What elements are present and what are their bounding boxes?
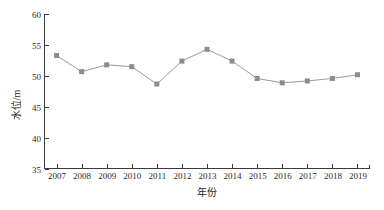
x-tick-label: 2012 xyxy=(173,172,191,181)
y-tick-label: 60 xyxy=(32,10,41,19)
data-point-marker xyxy=(255,76,260,81)
data-point-marker xyxy=(305,78,310,83)
x-tick-label: 2018 xyxy=(324,172,342,181)
x-tick-label: 2010 xyxy=(123,172,141,181)
y-tick-label: 45 xyxy=(32,103,41,112)
y-tick-label: 50 xyxy=(32,72,41,81)
plot-area: 354045505560 200720082009201020112012201… xyxy=(44,14,370,169)
series-water-level xyxy=(44,14,370,169)
x-tick-label: 2009 xyxy=(98,172,116,181)
x-axis-title: 年份 xyxy=(44,188,370,198)
x-tick-label: 2008 xyxy=(73,172,91,181)
x-tick-label: 2011 xyxy=(149,172,167,181)
data-point-marker xyxy=(154,82,159,87)
x-tick-label: 2015 xyxy=(249,172,267,181)
y-tick-label: 35 xyxy=(32,165,41,174)
x-tick-label: 2019 xyxy=(349,172,367,181)
water-level-line-chart: 水位/m 354045505560 2007200820092010201120… xyxy=(0,0,384,210)
x-tick-label: 2014 xyxy=(224,172,242,181)
data-point-marker xyxy=(205,47,210,52)
y-tick-label: 40 xyxy=(32,134,41,143)
x-tick-label: 2007 xyxy=(48,172,66,181)
data-point-marker xyxy=(355,72,360,77)
data-point-marker xyxy=(79,69,84,74)
x-tick-label: 2016 xyxy=(274,172,292,181)
data-point-marker xyxy=(230,59,235,64)
data-point-marker xyxy=(330,76,335,81)
data-point-marker xyxy=(179,59,184,64)
y-tick: 35 xyxy=(45,169,49,170)
y-tick-label: 55 xyxy=(32,41,41,50)
y-axis-title: 水位/m xyxy=(12,90,22,121)
data-point-marker xyxy=(280,80,285,85)
data-point-marker xyxy=(54,53,59,58)
data-point-marker xyxy=(129,64,134,69)
data-point-marker xyxy=(104,62,109,67)
series-line xyxy=(57,49,358,84)
x-tick-label: 2017 xyxy=(299,172,317,181)
x-tick-label: 2013 xyxy=(199,172,217,181)
